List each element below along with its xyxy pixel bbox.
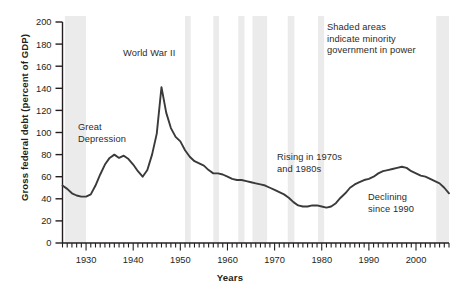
y-tick-label: 180 (36, 40, 52, 50)
shaded-band-3 (238, 16, 244, 243)
x-tick-label: 1980 (311, 255, 332, 265)
shaded-band-5 (288, 16, 295, 243)
x-tick-label: 1950 (170, 255, 191, 265)
shaded-band-7 (436, 16, 449, 243)
annotation-great-depression: Great Depression (78, 122, 126, 145)
annotation-rising-1970s-1980s: Rising in 1970s and 1980s (277, 152, 342, 175)
y-tick-label: 200 (36, 17, 52, 27)
chart-container: Gross federal debt (percent of GDP) 0204… (0, 0, 460, 299)
shaded-band-2 (213, 16, 219, 243)
y-tick-label: 20 (41, 216, 51, 226)
shaded-band-6 (318, 16, 324, 243)
x-axis-title: Years (0, 272, 460, 283)
shaded-band-1 (185, 16, 191, 243)
annotation-declining-since-1990: Declining since 1990 (368, 192, 414, 215)
y-tick-label: 60 (41, 172, 51, 182)
annotation-shaded-areas-note: Shaded areas indicate minority governmen… (327, 22, 416, 57)
y-tick-label: 40 (41, 194, 51, 204)
y-tick-label: 160 (36, 62, 52, 72)
annotation-world-war-ii: World War II (123, 48, 175, 60)
x-tick-label: 1960 (217, 255, 238, 265)
y-tick-label: 100 (36, 128, 52, 138)
x-tick-label: 2000 (406, 255, 427, 265)
x-tick-label: 1990 (359, 255, 380, 265)
x-tick-label: 1940 (123, 255, 144, 265)
x-tick-label: 1970 (264, 255, 285, 265)
y-tick-label: 120 (36, 106, 52, 116)
y-tick-label: 140 (36, 84, 52, 94)
x-tick-label: 1930 (76, 255, 97, 265)
y-tick-label: 0 (46, 238, 51, 248)
y-tick-label: 80 (41, 150, 51, 160)
shaded-band-4 (252, 16, 267, 243)
